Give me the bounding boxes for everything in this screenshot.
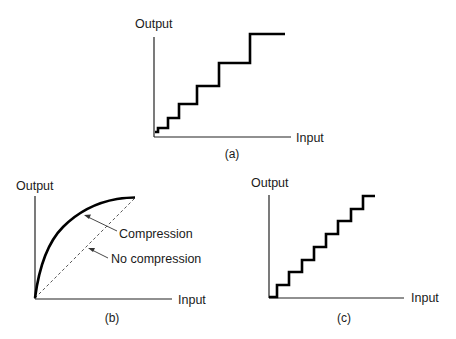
compression-label: Compression bbox=[119, 227, 193, 241]
no-compression-arrow-line bbox=[92, 250, 108, 258]
panel-a: Output Input (a) bbox=[135, 17, 324, 161]
panel-b-linear-dashed-line bbox=[35, 198, 135, 298]
panel-c-caption: (c) bbox=[337, 311, 351, 325]
panel-b: Output Input Compression No compression … bbox=[16, 179, 206, 325]
panel-a-y-label: Output bbox=[135, 17, 173, 31]
panel-c-y-label: Output bbox=[251, 176, 289, 190]
no-compression-label: No compression bbox=[111, 252, 201, 266]
panel-c: Output Input (c) bbox=[251, 176, 439, 325]
panel-a-caption: (a) bbox=[225, 147, 240, 161]
compression-arrow-line bbox=[88, 217, 117, 231]
panel-a-x-label: Input bbox=[296, 131, 324, 145]
panel-a-nonuniform-staircase bbox=[155, 34, 285, 132]
panel-c-uniform-staircase bbox=[269, 196, 375, 297]
panel-b-compression-curve bbox=[35, 198, 135, 299]
panel-c-x-label: Input bbox=[411, 291, 439, 305]
panel-b-x-label: Input bbox=[178, 293, 206, 307]
panel-b-y-label: Output bbox=[16, 179, 54, 193]
figure: Output Input (a) Output Input Compressio… bbox=[0, 0, 456, 339]
panel-b-caption: (b) bbox=[105, 311, 120, 325]
